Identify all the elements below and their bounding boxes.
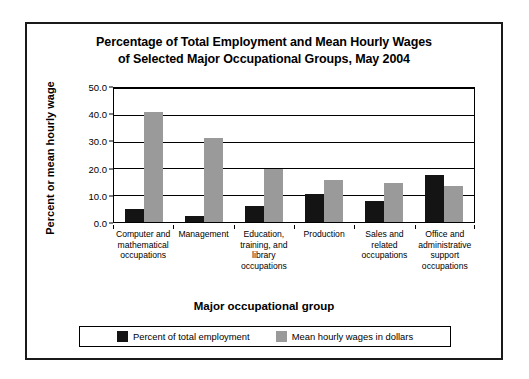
legend-swatch-gray [276, 331, 287, 342]
y-tick-label: 50.0 [89, 82, 108, 93]
y-tick-label: 20.0 [89, 163, 108, 174]
x-category-label: Sales andrelatedoccupations [354, 225, 414, 271]
bar-employment [125, 209, 144, 222]
x-tick-mark [173, 225, 174, 229]
bar-wage [144, 112, 163, 222]
x-category-label-line: occupations [114, 250, 172, 261]
x-category-label-line: Office and [416, 229, 474, 240]
legend-label-series-1: Percent of total employment [133, 331, 250, 342]
x-category-label-line: support [416, 250, 474, 261]
x-category-label-line: Management [174, 229, 232, 240]
bar-employment [305, 194, 324, 222]
bar-wage [204, 138, 223, 222]
y-tick-label: 30.0 [89, 136, 108, 147]
x-category-label: Computer andmathematicaloccupations [113, 225, 173, 271]
x-category-label-line: Computer and [114, 229, 172, 240]
legend-swatch-black [117, 331, 128, 342]
bar-employment [425, 175, 444, 222]
y-tick-mark [109, 141, 113, 142]
y-tick-label: 40.0 [89, 109, 108, 120]
x-category-label-line: administrative [416, 240, 474, 251]
x-category-label-line: occupations [355, 250, 413, 261]
x-tick-mark [354, 225, 355, 229]
bar-group [234, 88, 294, 222]
plot-wrapper: 50.040.030.020.010.00.0 [113, 87, 475, 223]
y-tick-mark [109, 195, 113, 196]
x-category-label-line: library [235, 250, 293, 261]
x-category-label-line: training, and [235, 240, 293, 251]
x-category-label: Management [173, 225, 233, 271]
x-category-label-line: related [355, 240, 413, 251]
bar-group [294, 88, 354, 222]
x-category-label-line: Education, [235, 229, 293, 240]
x-category-label-line: occupations [416, 261, 474, 272]
y-tick-label: 0.0 [94, 218, 107, 229]
chart-title: Percentage of Total Employment and Mean … [27, 34, 501, 68]
x-tick-mark [113, 225, 114, 229]
bar-group [174, 88, 234, 222]
x-category-label: Office andadministrativesupportoccupatio… [415, 225, 475, 271]
chart-title-line-1: Percentage of Total Employment and Mean … [27, 34, 501, 51]
chart-figure-frame: Percentage of Total Employment and Mean … [25, 22, 503, 360]
bar-group [414, 88, 474, 222]
bar-employment [185, 216, 204, 222]
x-tick-mark [234, 225, 235, 229]
x-tick-mark [415, 225, 416, 229]
y-tick-label: 10.0 [89, 190, 108, 201]
y-axis-label: Percent or mean hourly wage [44, 73, 56, 243]
legend-item-percent-of-total-employment: Percent of total employment [117, 331, 250, 342]
x-category-label: Education,training, andlibraryoccupation… [234, 225, 294, 271]
x-tick-mark [474, 225, 475, 229]
chart-legend: Percent of total employment Mean hourly … [79, 326, 451, 347]
y-tick-mark [109, 87, 113, 88]
y-tick-mark [109, 223, 113, 224]
chart-title-line-2: of Selected Major Occupational Groups, M… [27, 51, 501, 68]
bar-employment [245, 206, 264, 222]
x-category-label-line: occupations [235, 261, 293, 272]
legend-label-series-2: Mean hourly wages in dollars [292, 331, 413, 342]
bar-wage [444, 186, 463, 222]
y-tick-mark [109, 168, 113, 169]
y-tick-mark [109, 114, 113, 115]
bar-series-container [114, 88, 474, 222]
x-category-label-line: mathematical [114, 240, 172, 251]
bar-wage [384, 183, 403, 222]
bar-group [114, 88, 174, 222]
bar-employment [365, 201, 384, 222]
x-category-label-line: Production [295, 229, 353, 240]
x-category-label: Production [294, 225, 354, 271]
x-axis-label: Major occupational group [27, 300, 501, 312]
x-tick-mark [294, 225, 295, 229]
x-axis-category-labels: Computer andmathematicaloccupationsManag… [113, 225, 475, 271]
bar-wage [264, 169, 283, 222]
legend-item-mean-hourly-wages: Mean hourly wages in dollars [276, 331, 413, 342]
x-category-label-line: Sales and [355, 229, 413, 240]
bar-group [354, 88, 414, 222]
plot-area [113, 87, 475, 223]
bar-wage [324, 180, 343, 222]
